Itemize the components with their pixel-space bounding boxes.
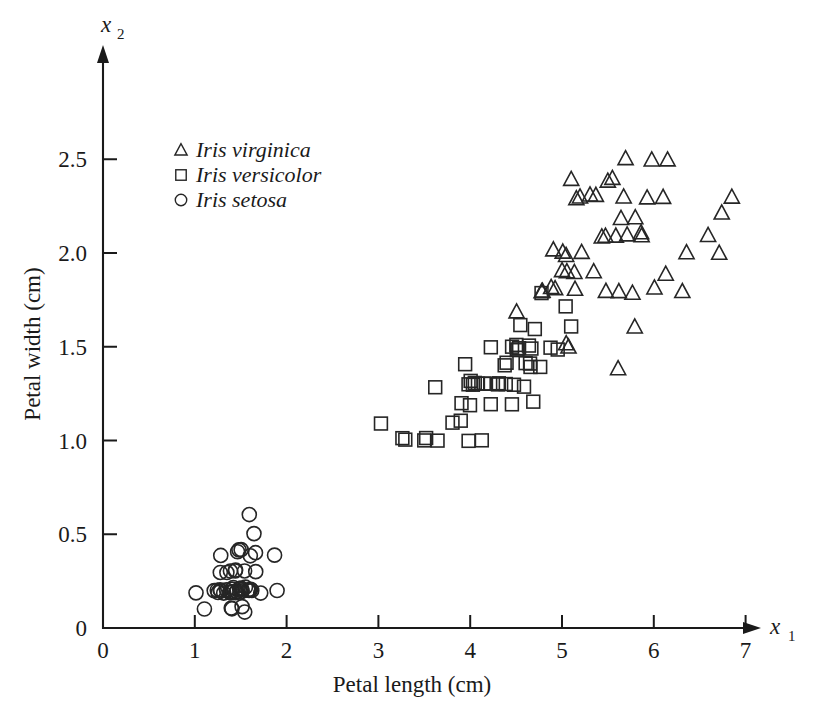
data-point (724, 189, 739, 203)
data-point (613, 210, 628, 224)
data-point (527, 395, 540, 408)
x-axis-title: Petal length (cm) (333, 672, 491, 697)
data-point (627, 319, 642, 333)
data-point (247, 527, 261, 541)
data-point (238, 605, 252, 619)
data-point (559, 300, 572, 313)
scatter-plot-figure: 01234567 00.51.01.52.02.5 Petal length (… (0, 0, 828, 728)
plot-canvas: 01234567 00.51.01.52.02.5 Petal length (… (0, 0, 828, 728)
y-axis-tick-labels: 00.51.01.52.02.5 (58, 147, 87, 641)
data-point (375, 417, 388, 430)
x-axis-variable-label: x (769, 614, 781, 639)
data-points-layer (189, 151, 739, 619)
x-ticklabel-4: 4 (464, 638, 476, 663)
data-point (197, 602, 211, 616)
data-point (647, 280, 662, 294)
x-ticklabel-7: 7 (740, 638, 752, 663)
data-point (611, 361, 626, 375)
y-ticklabel-0: 0 (76, 616, 88, 641)
data-point (484, 398, 497, 411)
data-point (701, 227, 716, 241)
data-point (224, 601, 238, 615)
x-axis-tick-labels: 01234567 (97, 638, 751, 663)
data-point (644, 152, 659, 166)
x-axis-ticks (195, 615, 746, 628)
data-point (564, 171, 579, 185)
legend-label-iris-versicolor: Iris versicolor (195, 162, 322, 187)
data-point (268, 548, 282, 562)
x-ticklabel-5: 5 (556, 638, 568, 663)
x-ticklabel-0: 0 (97, 638, 109, 663)
data-point (598, 283, 613, 297)
x-ticklabel-6: 6 (648, 638, 660, 663)
x-axis-variable-subscript: 1 (788, 628, 796, 644)
legend-label-iris-virginica: Iris virginica (195, 137, 311, 162)
data-point (484, 341, 497, 354)
data-point (429, 381, 442, 394)
data-point (712, 245, 727, 259)
data-point (524, 361, 537, 374)
legend-marker-triangle (175, 144, 187, 155)
data-point (611, 284, 626, 298)
y-axis-ticks (103, 159, 117, 534)
chart-legend: Iris virginicaIris versicolorIris setosa (175, 137, 322, 212)
data-point (492, 378, 505, 391)
y-axis-variable-label: x (100, 12, 112, 37)
x-ticklabel-2: 2 (281, 638, 293, 663)
data-point (565, 320, 578, 333)
data-point (462, 434, 475, 447)
data-point (618, 151, 633, 165)
y-ticklabel-1.0: 1.0 (58, 429, 87, 454)
data-point (656, 189, 671, 203)
data-point (616, 189, 631, 203)
y-ticklabel-2.0: 2.0 (58, 241, 87, 266)
data-point (248, 546, 262, 560)
data-point (679, 245, 694, 259)
series-iris-versicolor (375, 287, 578, 448)
y-ticklabel-2.5: 2.5 (58, 147, 87, 172)
data-point (475, 434, 488, 447)
data-point (675, 284, 690, 298)
data-point (509, 304, 524, 318)
x-ticklabel-3: 3 (373, 638, 385, 663)
data-point (506, 398, 519, 411)
data-point (625, 285, 640, 299)
y-ticklabel-0.5: 0.5 (58, 522, 87, 547)
y-axis-variable-subscript: 2 (117, 26, 125, 42)
data-point (586, 264, 601, 278)
data-point (519, 357, 532, 370)
data-point (567, 281, 582, 295)
y-ticklabel-1.5: 1.5 (58, 335, 87, 360)
y-axis-title: Petal width (cm) (20, 267, 45, 420)
series-iris-setosa (189, 508, 284, 620)
data-point (658, 266, 673, 280)
data-point (270, 584, 284, 598)
data-point (459, 358, 472, 371)
data-point (660, 152, 675, 166)
data-point (514, 319, 527, 332)
data-point (189, 586, 203, 600)
data-point (242, 508, 256, 522)
data-point (528, 323, 541, 336)
data-point (546, 242, 561, 256)
data-point (628, 210, 643, 224)
y-axis-arrowhead (97, 45, 109, 63)
data-point (574, 244, 589, 258)
legend-marker-circle (175, 194, 186, 205)
data-point (714, 205, 729, 219)
x-ticklabel-1: 1 (189, 638, 201, 663)
legend-label-iris-setosa: Iris setosa (195, 187, 287, 212)
axes (97, 45, 761, 634)
data-point (640, 190, 655, 204)
data-point (608, 228, 623, 242)
legend-marker-square (176, 170, 186, 180)
data-point (214, 548, 228, 562)
